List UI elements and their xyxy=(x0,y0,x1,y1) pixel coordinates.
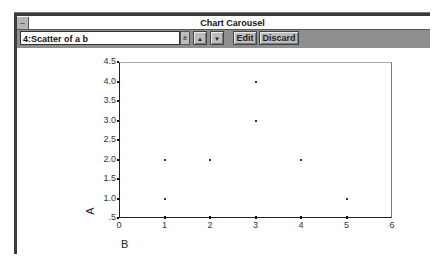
data-point xyxy=(164,198,166,200)
plot-area xyxy=(119,62,392,218)
y-tick-label: 3.5 xyxy=(90,96,116,105)
y-tick-mark xyxy=(117,81,119,83)
x-tick-label: 4 xyxy=(296,220,306,230)
y-tick-mark xyxy=(117,178,119,180)
next-chart-button[interactable]: ▼ xyxy=(210,31,224,45)
y-tick-label: 4.5 xyxy=(90,57,116,66)
y-axis-label: A xyxy=(84,207,96,214)
y-tick-label: 1.5 xyxy=(90,174,116,183)
x-tick-label: 6 xyxy=(387,220,397,230)
data-point xyxy=(346,198,348,200)
x-tick-label: 2 xyxy=(205,220,215,230)
minus-icon: – xyxy=(20,18,24,27)
x-tick-mark xyxy=(209,216,211,219)
window-border xyxy=(14,16,17,254)
data-point xyxy=(255,81,257,83)
data-point xyxy=(255,120,257,122)
y-tick-mark xyxy=(117,217,119,219)
data-point xyxy=(300,159,302,161)
x-tick-mark xyxy=(346,216,348,219)
x-tick-mark xyxy=(164,216,166,219)
y-tick-label: 2.5 xyxy=(90,135,116,144)
y-tick-mark xyxy=(117,159,119,161)
y-tick-mark xyxy=(117,120,119,122)
y-tick-label: 1.0 xyxy=(90,194,116,203)
data-point xyxy=(209,159,211,161)
parent-window-strip xyxy=(14,12,430,16)
arrow-down-icon: ▼ xyxy=(214,36,220,42)
arrow-up-icon: ▲ xyxy=(197,36,203,42)
discard-button[interactable]: Discard xyxy=(259,31,299,45)
x-tick-label: 5 xyxy=(342,220,352,230)
x-tick-label: 0 xyxy=(114,220,124,230)
y-tick-mark xyxy=(117,100,119,102)
x-tick-mark xyxy=(255,216,257,219)
x-axis-label: B xyxy=(121,238,128,250)
dropdown-arrow-icon[interactable]: ± xyxy=(180,31,190,45)
previous-chart-button[interactable]: ▲ xyxy=(193,31,207,45)
x-tick-label: 3 xyxy=(251,220,261,230)
y-tick-label: 2.0 xyxy=(90,155,116,164)
window-title: Chart Carousel xyxy=(28,17,437,29)
x-tick-label: 1 xyxy=(160,220,170,230)
data-point xyxy=(164,159,166,161)
y-tick-mark xyxy=(117,139,119,141)
y-tick-mark xyxy=(117,61,119,63)
x-tick-mark xyxy=(300,216,302,219)
y-tick-label: 3.0 xyxy=(90,116,116,125)
edit-button[interactable]: Edit xyxy=(233,31,257,45)
y-tick-mark xyxy=(117,198,119,200)
y-tick-label: 4.0 xyxy=(90,77,116,86)
chart-select[interactable]: 4:Scatter of a b xyxy=(20,31,180,45)
